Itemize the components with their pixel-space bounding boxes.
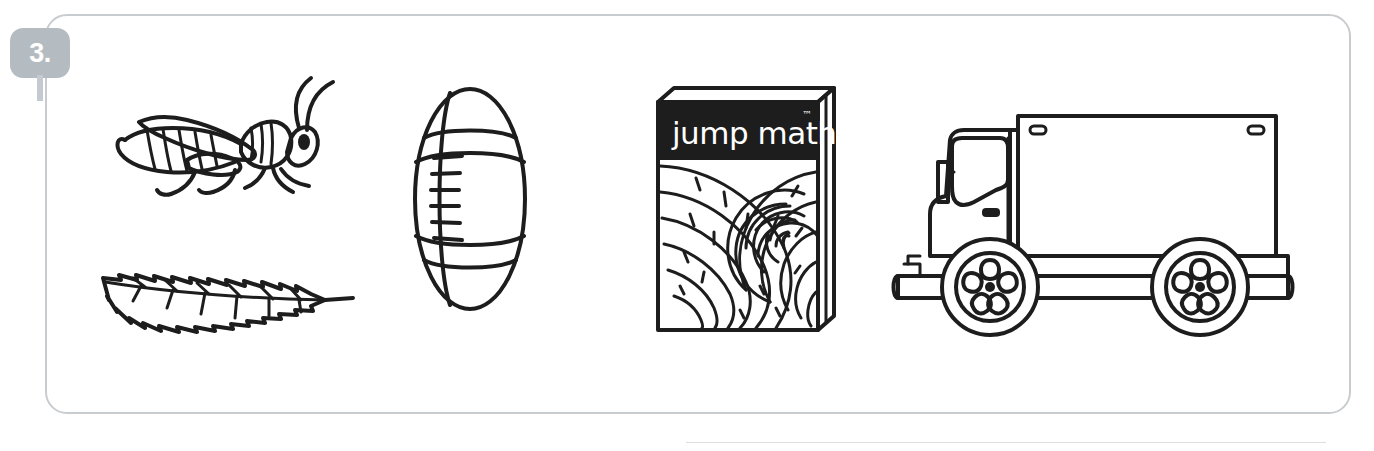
book-title-text: jump math <box>671 115 837 151</box>
grasshopper-icon <box>95 74 315 204</box>
football-icon <box>410 84 530 314</box>
book-trademark-text: ™ <box>802 109 812 120</box>
book-item[interactable]: jump math ™ <box>650 80 850 345</box>
clipped-heading: Circle the objects that have a line of s… <box>0 0 1374 2</box>
leaf-item[interactable] <box>85 254 355 344</box>
football-item[interactable] <box>410 84 530 314</box>
truck-icon <box>890 104 1300 334</box>
grasshopper-item[interactable] <box>95 74 315 204</box>
worksheet-page: Circle the objects that have a line of s… <box>0 0 1374 451</box>
leaf-icon <box>85 254 355 344</box>
truck-item[interactable] <box>890 104 1300 334</box>
footer-rule <box>686 442 1326 443</box>
exercise-item-row: jump math ™ <box>45 14 1351 414</box>
question-number-badge: 3. <box>10 28 70 78</box>
book-icon: jump math ™ <box>650 80 850 345</box>
